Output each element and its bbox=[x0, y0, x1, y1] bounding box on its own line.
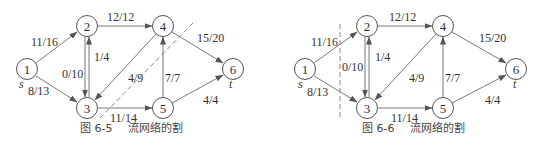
svg-text:3: 3 bbox=[364, 101, 371, 116]
edge-label-5-4: 7/7 bbox=[165, 71, 180, 85]
edge-label-4-3: 4/9 bbox=[128, 71, 143, 85]
node-2: 2 bbox=[77, 16, 98, 37]
edge-label-5-4: 7/7 bbox=[445, 71, 460, 85]
edge-label-1-2: 11/16 bbox=[311, 35, 338, 49]
svg-text:5: 5 bbox=[440, 101, 447, 116]
source-label: s bbox=[298, 77, 303, 91]
node-3: 3 bbox=[357, 98, 378, 119]
source-label: s bbox=[19, 77, 24, 91]
edge-label-1-3: 8/13 bbox=[307, 85, 328, 99]
svg-text:4: 4 bbox=[440, 19, 447, 34]
svg-text:3: 3 bbox=[84, 101, 91, 116]
edge-label-4-3: 4/9 bbox=[409, 71, 424, 85]
svg-text:5: 5 bbox=[160, 101, 167, 116]
flow-network-figures: 11/16 8/13 12/12 0/10 1/4 4/9 11/14 7/7 … bbox=[0, 0, 536, 147]
edge-label-3-2: 1/4 bbox=[375, 50, 390, 64]
svg-text:6: 6 bbox=[513, 62, 520, 77]
svg-text:1: 1 bbox=[302, 62, 309, 77]
caption-number: 图 6-5 bbox=[80, 122, 112, 135]
edge-label-2-4: 12/12 bbox=[389, 10, 416, 24]
node-2: 2 bbox=[357, 16, 378, 37]
svg-text:2: 2 bbox=[84, 19, 91, 34]
edge-label-3-2: 1/4 bbox=[94, 50, 109, 64]
edge-label-2-3: 0/10 bbox=[342, 60, 363, 74]
svg-text:1: 1 bbox=[24, 62, 31, 77]
edge-4-3 bbox=[375, 34, 436, 100]
edge-label-5-6: 4/4 bbox=[485, 93, 500, 107]
edge-label-4-6: 15/20 bbox=[197, 31, 224, 45]
edge-4-3 bbox=[95, 34, 156, 100]
edge-label-4-6: 15/20 bbox=[479, 31, 506, 45]
edge-label-2-3: 0/10 bbox=[62, 67, 83, 81]
svg-text:4: 4 bbox=[160, 19, 167, 34]
svg-text:2: 2 bbox=[364, 19, 371, 34]
edge-label-1-3: 8/13 bbox=[28, 84, 49, 98]
svg-text:6: 6 bbox=[230, 62, 237, 77]
caption-title: 流网络的割 bbox=[128, 121, 183, 135]
node-5: 5 bbox=[153, 98, 174, 119]
node-3: 3 bbox=[77, 98, 98, 119]
figure-6-5: 11/16 8/13 12/12 0/10 1/4 4/9 11/14 7/7 … bbox=[17, 10, 244, 135]
edge-label-5-6: 4/4 bbox=[203, 93, 218, 107]
node-5: 5 bbox=[433, 98, 454, 119]
caption-number: 图 6-6 bbox=[362, 122, 394, 135]
edge-label-1-2: 11/16 bbox=[31, 35, 58, 49]
node-4: 4 bbox=[433, 16, 454, 37]
node-4: 4 bbox=[153, 16, 174, 37]
figure-6-6: 11/16 8/13 12/12 0/10 1/4 4/9 11/14 7/7 … bbox=[295, 10, 527, 135]
node-6: 6 bbox=[223, 59, 244, 80]
caption-title: 流网络的割 bbox=[410, 121, 465, 135]
edge-label-2-4: 12/12 bbox=[107, 10, 134, 24]
